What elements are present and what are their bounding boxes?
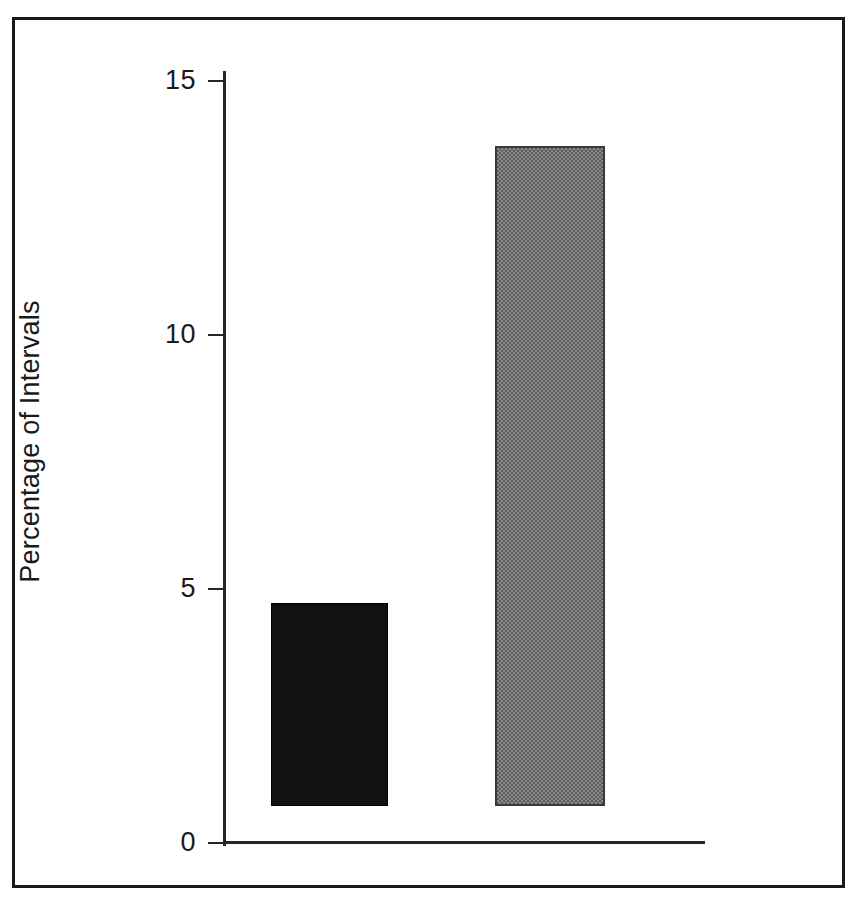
y-tick-mark-10: [208, 334, 223, 336]
y-tick-label-10: 10: [76, 321, 196, 348]
y-axis-line: [223, 71, 226, 846]
y-tick-label-0: 0: [76, 829, 196, 856]
y-tick-mark-15: [208, 80, 223, 82]
bar-series-1: [271, 603, 388, 806]
y-tick-mark-5: [208, 588, 223, 590]
x-axis-line: [223, 841, 705, 844]
y-tick-label-5: 5: [76, 575, 196, 602]
chart-figure-frame: 15 10 5 0 Percentage of Intervals: [12, 17, 845, 888]
bar-series-2: [495, 146, 605, 806]
y-axis-title: Percentage of Intervals: [15, 20, 45, 888]
y-tick-mark-0: [208, 842, 223, 844]
y-axis-title-text: Percentage of Intervals: [15, 300, 46, 582]
plot-area: 15 10 5 0 Percentage of Intervals: [15, 20, 842, 885]
y-tick-label-15: 15: [76, 67, 196, 94]
